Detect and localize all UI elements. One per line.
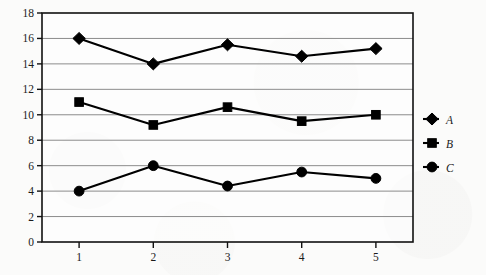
data-point-B-2 [149, 121, 158, 130]
y-tick-label: 6 [28, 160, 34, 172]
data-point-B-3 [223, 103, 232, 112]
y-tick-label: 16 [23, 32, 35, 44]
y-axis-tick-labels: 024681012141618 [23, 7, 35, 248]
y-tick-label: 8 [28, 134, 34, 146]
x-axis-tick-labels: 12345 [76, 251, 379, 263]
y-tick-label: 10 [23, 109, 35, 121]
line-chart: 024681012141618 12345 ABC [0, 0, 486, 275]
x-tick-label: 4 [299, 251, 305, 263]
y-tick-label: 4 [28, 185, 34, 197]
y-tick-label: 14 [23, 58, 35, 70]
data-point-C-5 [371, 173, 381, 183]
y-tick-label: 18 [23, 7, 35, 19]
chart-legend: ABC [423, 113, 454, 174]
legend-marker-C [427, 162, 437, 172]
data-point-C-1 [74, 186, 84, 196]
data-point-B-1 [75, 98, 84, 107]
data-point-C-4 [297, 167, 307, 177]
y-tick-label: 0 [28, 236, 34, 248]
legend-label-B: B [446, 138, 453, 150]
data-point-C-3 [223, 181, 233, 191]
data-point-B-5 [372, 110, 381, 119]
legend-marker-A [426, 113, 438, 125]
x-tick-label: 1 [76, 251, 82, 263]
legend-label-A: A [445, 114, 454, 126]
x-tick-label: 5 [373, 251, 379, 263]
y-tick-label: 2 [28, 211, 34, 223]
x-tick-label: 2 [150, 251, 156, 263]
x-tick-label: 3 [225, 251, 231, 263]
y-tick-label: 12 [23, 83, 35, 95]
data-point-C-2 [148, 161, 158, 171]
legend-label-C: C [446, 162, 454, 174]
x-axis-ticks [79, 242, 376, 248]
data-point-B-4 [297, 117, 306, 126]
legend-marker-B [428, 139, 437, 148]
